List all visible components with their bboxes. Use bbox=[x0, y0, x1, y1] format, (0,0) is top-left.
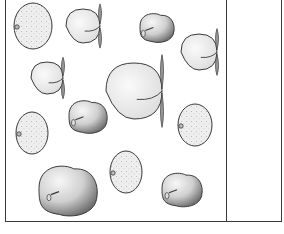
peach-icon bbox=[106, 55, 164, 128]
orange-icon bbox=[110, 151, 142, 193]
apple-icon bbox=[140, 14, 174, 43]
fruit-layer bbox=[0, 0, 284, 234]
apple-icon bbox=[69, 101, 107, 134]
apple-icon bbox=[162, 173, 202, 207]
fruit-illustration bbox=[0, 0, 284, 234]
peach-icon bbox=[66, 4, 102, 48]
peach-icon bbox=[31, 57, 65, 99]
peach-icon bbox=[181, 29, 219, 76]
orange-icon bbox=[14, 3, 52, 49]
orange-icon bbox=[178, 104, 212, 146]
orange-icon bbox=[16, 112, 48, 154]
apple-icon bbox=[39, 166, 97, 216]
